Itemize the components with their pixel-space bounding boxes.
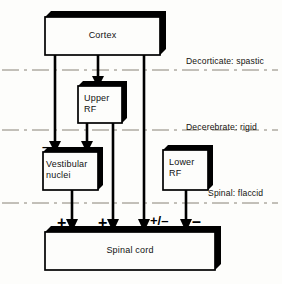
sign-spinal-lowerrf-inhibition: – bbox=[192, 214, 201, 230]
box-cortex bbox=[45, 17, 160, 55]
sign-spinal-vestibular-excitation: + bbox=[57, 215, 66, 231]
level-label-spinal: Spinal: flaccid bbox=[208, 188, 263, 198]
diagram-canvas: Cortex Upper RF Vestibular nuclei Lower … bbox=[0, 0, 282, 284]
sign-upper-rf-inhibition: – bbox=[86, 75, 93, 88]
box-lower-rf bbox=[163, 150, 208, 190]
sign-spinal-upperrf-excitation: + bbox=[98, 215, 107, 231]
sign-vestibular-left-inhibition: – bbox=[42, 140, 49, 153]
connector-lines bbox=[55, 55, 186, 225]
box-spinal-cord bbox=[45, 232, 215, 270]
level-label-decerebrate: Decerebrate: rigid bbox=[186, 122, 257, 132]
box-upper-rf bbox=[78, 86, 122, 123]
sign-vestibular-right-inhibition: – bbox=[93, 140, 100, 153]
sign-spinal-cortex-mixed: +/– bbox=[150, 214, 168, 227]
box-vestibular bbox=[43, 152, 98, 190]
box-faces bbox=[43, 17, 215, 270]
level-label-decorticate: Decorticate: spastic bbox=[186, 56, 264, 66]
